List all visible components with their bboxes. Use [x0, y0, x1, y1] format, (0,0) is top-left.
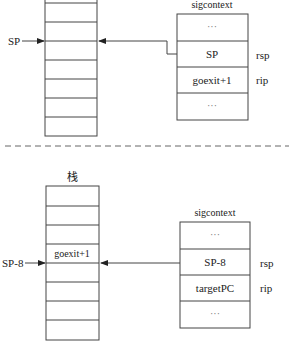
top-sp-label: SP [8, 35, 20, 47]
top-register-rsp: rsp [256, 49, 270, 61]
top-rsp-connector-arrow [99, 41, 177, 54]
bottom-stack-goexit-cell: goexit+1 [54, 248, 90, 259]
top-sigcontext-row-1: SP [206, 48, 218, 60]
top-sigcontext-row-0: ··· [207, 21, 217, 32]
bottom-sigcontext-title: sigcontext [194, 207, 235, 218]
top-register-rip: rip [256, 74, 269, 86]
top-sigcontext-row-3: ··· [207, 100, 217, 111]
bottom-register-rip: rip [260, 282, 273, 294]
bottom-stack-label: 栈 [67, 170, 78, 183]
top-sigcontext-title: sigcontext [191, 0, 232, 10]
bottom-sigcontext-row-1: SP-8 [204, 256, 226, 268]
bottom-sigcontext-row-2: targetPC [196, 282, 234, 294]
bottom-sp8-label: SP-8 [2, 257, 24, 269]
top-stack [45, 0, 97, 136]
bottom-sigcontext-row-3: ··· [210, 308, 220, 319]
bottom-sigcontext: sigcontext ··· SP-8 targetPC ··· rsp rip [180, 207, 274, 328]
top-stack-frame [45, 0, 97, 136]
top-sigcontext-row-2: goexit+1 [192, 74, 231, 86]
top-sigcontext: sigcontext ··· SP goexit+1 ··· rsp rip [177, 0, 270, 120]
bottom-register-rsp: rsp [260, 257, 274, 269]
bottom-stack: goexit+1 [46, 186, 99, 340]
bottom-sigcontext-row-0: ··· [210, 229, 220, 240]
